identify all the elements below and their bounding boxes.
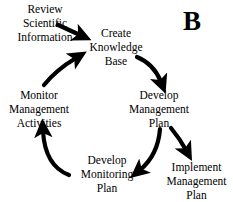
node-line: Scientific bbox=[2, 16, 88, 30]
cycle-diagram: Review Scientific Information Create Kno… bbox=[0, 0, 233, 202]
node-line: Monitoring bbox=[70, 167, 144, 181]
node-line: Plan bbox=[119, 116, 199, 130]
node-develop-monitoring-plan: Develop Monitoring Plan bbox=[70, 153, 144, 195]
node-line: Activities bbox=[0, 116, 78, 130]
node-line: Information bbox=[2, 30, 88, 44]
node-line: Base bbox=[79, 54, 153, 68]
node-line: Management bbox=[0, 102, 78, 116]
node-line: Implement bbox=[160, 160, 233, 174]
node-line: Plan bbox=[160, 188, 233, 202]
arrow-monitor-activities-to-create bbox=[44, 58, 76, 85]
node-line: Review bbox=[2, 2, 88, 16]
node-review-scientific-information: Review Scientific Information bbox=[2, 2, 88, 44]
node-line: Create bbox=[79, 26, 153, 40]
node-create-knowledge-base: Create Knowledge Base bbox=[79, 26, 153, 68]
node-line: Management bbox=[160, 174, 233, 188]
node-develop-management-plan: Develop Management Plan bbox=[119, 88, 199, 130]
node-line: Develop bbox=[119, 88, 199, 102]
arrow-develop-management-to-implement bbox=[171, 128, 186, 150]
panel-label: B bbox=[183, 8, 201, 35]
node-line: Develop bbox=[70, 153, 144, 167]
node-line: Monitor bbox=[0, 88, 78, 102]
node-implement-management-plan: Implement Management Plan bbox=[160, 160, 233, 202]
node-line: Management bbox=[119, 102, 199, 116]
node-line: Knowledge bbox=[79, 40, 153, 54]
node-line: Plan bbox=[70, 181, 144, 195]
arrow-monitoring-to-monitor-activities bbox=[43, 131, 69, 175]
node-monitor-management-activities: Monitor Management Activities bbox=[0, 88, 78, 130]
